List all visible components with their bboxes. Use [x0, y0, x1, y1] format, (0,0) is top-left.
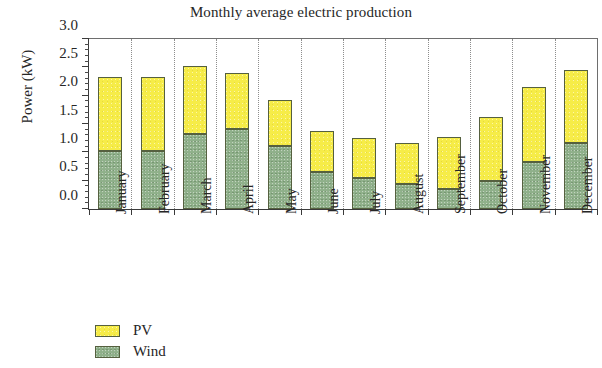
legend-swatch-wind [95, 346, 120, 358]
y-tick-minor [85, 89, 89, 90]
y-tick-minor [85, 49, 89, 50]
x-tick-label: March [200, 177, 214, 214]
y-tick-minor [85, 55, 89, 56]
x-tick [216, 209, 217, 215]
legend-label: PV [133, 322, 152, 339]
x-tick-label: December [581, 156, 595, 214]
y-tick-minor [85, 117, 89, 118]
bar-segment-pv[interactable] [352, 138, 376, 178]
y-tick-label: 1.5 [59, 102, 78, 117]
chart-figure: Monthly average electric production Powe… [0, 0, 602, 368]
y-tick-label: 2.5 [59, 45, 78, 60]
y-tick-minor [85, 163, 89, 164]
chart-legend: PVWind [95, 320, 166, 362]
y-tick-label: 0.0 [59, 187, 78, 202]
y-tick-minor [85, 72, 89, 73]
y-tick-minor [85, 44, 89, 45]
x-tick-label: July [369, 191, 383, 214]
y-tick-minor [85, 129, 89, 130]
y-tick-minor [85, 100, 89, 101]
x-tick [428, 209, 429, 215]
x-tick [89, 209, 90, 215]
y-tick-minor [85, 202, 89, 203]
y-tick-minor [85, 134, 89, 135]
grid-line-vertical [131, 39, 132, 209]
y-tick-minor [85, 112, 89, 113]
x-tick [131, 209, 132, 215]
x-tick [597, 209, 598, 215]
grid-line-vertical [385, 39, 386, 209]
y-tick-major [82, 38, 89, 39]
y-tick-minor [85, 140, 89, 141]
bar-segment-pv[interactable] [225, 73, 249, 129]
grid-line-vertical [216, 39, 217, 209]
y-tick-minor [85, 191, 89, 192]
y-tick-label: 2.0 [59, 74, 78, 89]
x-tick-label: September [454, 154, 468, 214]
y-tick-major [82, 151, 89, 152]
grid-line-vertical [555, 39, 556, 209]
y-tick-minor [85, 168, 89, 169]
y-tick-minor [85, 61, 89, 62]
bar-segment-pv[interactable] [98, 77, 122, 151]
y-axis-title: Power (kW) [19, 12, 36, 162]
bar-segment-pv[interactable] [183, 66, 207, 135]
y-tick-major [82, 66, 89, 67]
y-tick-label: 1.0 [59, 130, 78, 145]
y-tick-major [82, 180, 89, 181]
y-tick-minor [85, 185, 89, 186]
bar-segment-pv[interactable] [522, 87, 546, 162]
x-tick [555, 209, 556, 215]
x-tick [174, 209, 175, 215]
grid-line-vertical [258, 39, 259, 209]
y-tick-minor [85, 197, 89, 198]
grid-line-vertical [343, 39, 344, 209]
y-tick-label: 3.0 [59, 17, 78, 32]
x-tick-label: May [285, 188, 299, 214]
y-tick-major [82, 208, 89, 209]
chart-title: Monthly average electric production [0, 4, 602, 21]
y-tick-minor [85, 78, 89, 79]
x-tick [512, 209, 513, 215]
y-tick-major [82, 95, 89, 96]
y-tick-minor [85, 83, 89, 84]
x-tick-label: January [115, 170, 129, 214]
y-tick-minor [85, 106, 89, 107]
y-tick-minor [85, 157, 89, 158]
x-tick-label: November [539, 155, 553, 214]
x-tick [470, 209, 471, 215]
legend-item[interactable]: PV [95, 320, 166, 341]
grid-line-vertical [301, 39, 302, 209]
grid-line-vertical [174, 39, 175, 209]
grid-line-vertical [470, 39, 471, 209]
legend-item[interactable]: Wind [95, 341, 166, 362]
x-tick-label: June [327, 188, 341, 214]
y-tick-minor [85, 174, 89, 175]
y-tick-minor [85, 146, 89, 147]
grid-line-vertical [512, 39, 513, 209]
legend-swatch-pv [95, 325, 120, 337]
y-tick-major [82, 123, 89, 124]
x-tick [258, 209, 259, 215]
bar-segment-pv[interactable] [268, 100, 292, 146]
x-tick [301, 209, 302, 215]
x-tick [385, 209, 386, 215]
x-tick-label: April [242, 184, 256, 214]
x-tick-label: February [158, 163, 172, 214]
x-tick [343, 209, 344, 215]
legend-label: Wind [133, 343, 166, 360]
grid-line-vertical [428, 39, 429, 209]
x-tick-label: October [496, 169, 510, 214]
bar-segment-pv[interactable] [564, 70, 588, 143]
y-tick-label: 0.5 [59, 159, 78, 174]
x-tick-label: August [412, 174, 426, 214]
bar-segment-pv[interactable] [310, 131, 334, 172]
bar-segment-pv[interactable] [141, 77, 165, 151]
